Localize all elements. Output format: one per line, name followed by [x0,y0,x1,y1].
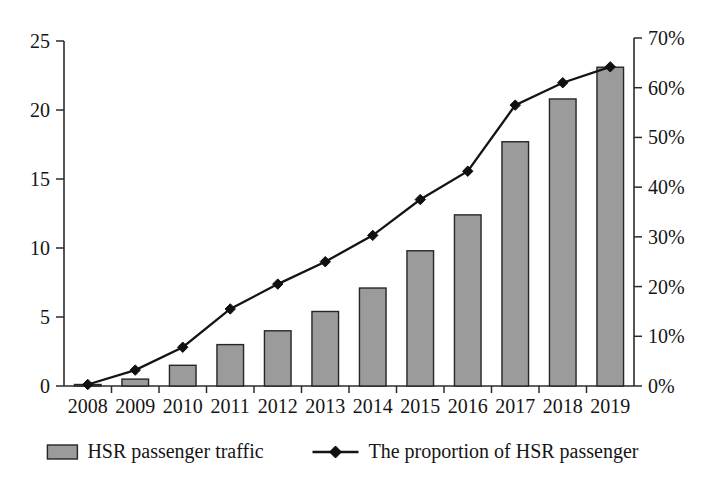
category-axis-label: 2019 [590,395,630,417]
category-axis-label: 2015 [400,395,440,417]
bar [597,67,624,386]
bar [359,288,386,386]
category-axis-label: 2010 [163,395,203,417]
right-axis-tick-label: 0% [648,375,675,397]
chart-container: 0510152025 0%10%20%30%40%50%60%70% 20082… [0,0,710,488]
left-axis-tick-label: 10 [30,237,50,259]
bar [312,311,339,386]
category-axis-label: 2012 [258,395,298,417]
category-axis-label: 2016 [448,395,488,417]
right-axis-tick-label: 30% [648,226,685,248]
bar [264,331,291,386]
left-axis-tick-label: 20 [30,99,50,121]
category-axis-label: 2009 [115,395,155,417]
left-axis-tick-label: 25 [30,30,50,52]
category-axis-label: 2017 [495,395,535,417]
category-axis-label: 2013 [305,395,345,417]
legend-swatch-bar [47,445,77,459]
category-axis-label: 2014 [353,395,393,417]
bar [502,142,529,386]
bar [217,345,244,386]
legend-label-line: The proportion of HSR passenger [369,440,639,463]
right-axis-tick-label: 40% [648,176,685,198]
bar [407,251,434,386]
bar [454,215,481,386]
left-axis-tick-label: 0 [40,375,50,397]
right-axis-tick-label: 20% [648,276,685,298]
category-axis-label: 2011 [211,395,250,417]
right-axis-tick-label: 50% [648,126,685,148]
right-axis-tick-label: 60% [648,77,685,99]
right-axis-tick-label: 10% [648,325,685,347]
bar [169,365,196,386]
right-axis-tick-label: 70% [648,27,685,49]
bar [549,99,576,386]
left-axis-tick-label: 5 [40,306,50,328]
combo-chart: 0510152025 0%10%20%30%40%50%60%70% 20082… [0,0,710,488]
left-axis-tick-label: 15 [30,168,50,190]
bar [122,379,149,386]
category-axis-label: 2008 [68,395,108,417]
category-axis-label: 2018 [543,395,583,417]
legend-label-bar: HSR passenger traffic [87,440,263,463]
